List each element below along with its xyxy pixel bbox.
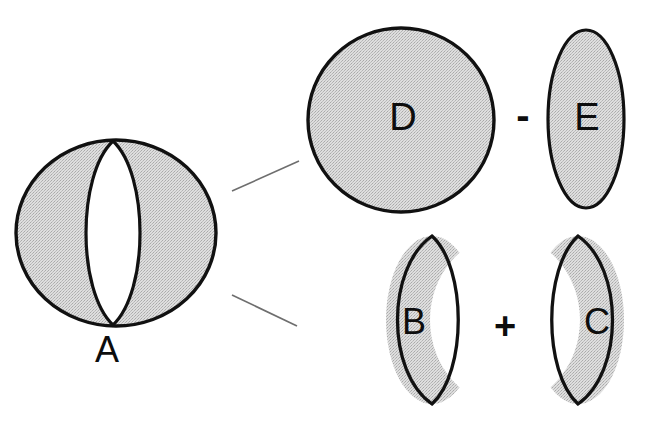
diagram-canvas: A D - E B + C bbox=[0, 0, 646, 440]
geometry-decomposition-diagram: A D - E B + C bbox=[0, 0, 646, 440]
shape-e-label: E bbox=[574, 96, 599, 138]
shape-c-label: C bbox=[584, 301, 610, 342]
plus-operator: + bbox=[494, 305, 516, 347]
shape-b-label: B bbox=[402, 301, 426, 342]
shape-c-fill bbox=[515, 225, 640, 420]
shape-b-fill bbox=[370, 225, 495, 420]
shape-d-label: D bbox=[389, 96, 416, 138]
minus-operator: - bbox=[516, 93, 529, 137]
expression-d-minus-e: D - E bbox=[308, 28, 624, 212]
shape-a-label: A bbox=[95, 329, 119, 370]
